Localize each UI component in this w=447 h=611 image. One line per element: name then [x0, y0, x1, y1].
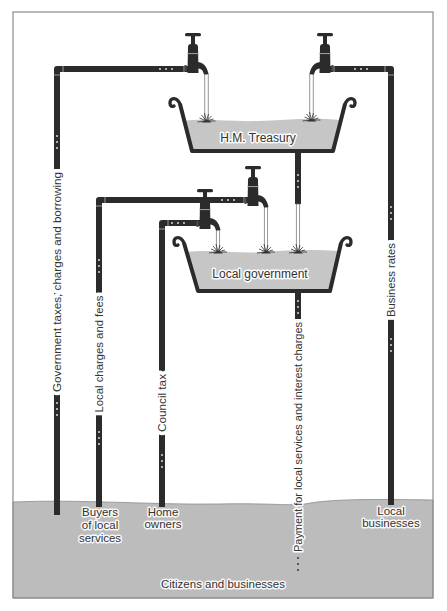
- public-finance-flow-diagram: H.M. Treasury Local government Governmen…: [0, 0, 447, 611]
- flow-marker-dot: [98, 431, 100, 433]
- stream-local-charges: [264, 207, 267, 251]
- ground-label: Citizens and businesses: [161, 578, 285, 590]
- flow-marker-dot: [56, 135, 58, 137]
- flow-label-local-charges: Local charges and fees: [93, 295, 105, 413]
- flow-label-government-taxes: Government taxes, charges and borrowing: [51, 172, 63, 392]
- flow-marker-dot: [297, 300, 299, 302]
- flow-marker-dot: [161, 454, 163, 456]
- pipe-local-charges: [99, 200, 248, 507]
- flow-marker-dot: [165, 68, 167, 70]
- source-home-owners: Home owners: [144, 506, 181, 530]
- treasury-label: H.M. Treasury: [220, 131, 295, 145]
- flow-marker-dot: [297, 569, 299, 571]
- flow-marker-dot: [297, 174, 299, 176]
- stream-treasury-to-local: [296, 204, 299, 251]
- flow-marker-dot: [161, 460, 163, 462]
- flow-label-business-rates: Business rates: [385, 242, 397, 317]
- flow-marker-dot: [159, 68, 161, 70]
- source-label-line: owners: [144, 518, 181, 530]
- flow-marker-dot: [177, 222, 179, 224]
- flow-marker-dot: [390, 344, 392, 346]
- flow-marker-dot: [366, 68, 368, 70]
- flow-marker-dot: [56, 408, 58, 410]
- flow-marker-dot: [297, 186, 299, 188]
- flow-marker-dot: [390, 212, 392, 214]
- flow-marker-dot: [221, 199, 223, 201]
- tap-icon-government-taxes: [185, 33, 209, 75]
- flow-marker-dot: [297, 312, 299, 314]
- flow-marker-dot: [390, 218, 392, 220]
- source-label-line: Buyers: [82, 506, 118, 518]
- stream-government-taxes: [205, 74, 208, 120]
- flow-marker-dot: [360, 68, 362, 70]
- local-government-label: Local government: [212, 267, 308, 281]
- flow-marker-dot: [227, 199, 229, 201]
- flow-marker-dot: [98, 443, 100, 445]
- flow-marker-dot: [297, 306, 299, 308]
- flow-marker-dot: [56, 141, 58, 143]
- flow-marker-dot: [297, 557, 299, 559]
- flow-marker-dot: [98, 437, 100, 439]
- flow-label-council-tax: Council tax: [156, 373, 168, 432]
- flow-label-payments: Payment for local services and interest …: [292, 322, 304, 552]
- flow-marker-dot: [183, 222, 185, 224]
- flow-marker-dot: [354, 68, 356, 70]
- pipe-government-taxes: [57, 69, 188, 515]
- source-label-line: services: [79, 532, 121, 544]
- flow-marker-dot: [297, 563, 299, 565]
- flow-marker-dot: [297, 180, 299, 182]
- flow-marker-dot: [171, 68, 173, 70]
- local-government-bath: Local government: [174, 238, 351, 291]
- flow-marker-dot: [98, 265, 100, 267]
- flow-marker-dot: [390, 206, 392, 208]
- flow-marker-dot: [98, 271, 100, 273]
- treasury-bath: H.M. Treasury: [170, 99, 355, 151]
- flow-marker-dot: [233, 199, 235, 201]
- source-label-line: of local: [82, 519, 118, 531]
- flow-marker-dot: [171, 222, 173, 224]
- tap-icon-council-tax: [197, 189, 221, 231]
- source-label-line: Local: [377, 505, 405, 517]
- flow-marker-dot: [161, 466, 163, 468]
- flow-marker-dot: [390, 350, 392, 352]
- flow-marker-dot: [56, 147, 58, 149]
- flow-marker-dot: [390, 338, 392, 340]
- stream-business-rates: [310, 74, 313, 120]
- flow-marker-dot: [56, 414, 58, 416]
- source-buyers-of-local-services: Buyers of local services: [79, 506, 121, 544]
- tap-icon-business-rates: [310, 33, 334, 75]
- tap-icon-local-charges: [245, 166, 269, 208]
- source-label-line: businesses: [362, 517, 420, 529]
- source-label-line: Home: [148, 506, 179, 518]
- flow-marker-dot: [98, 259, 100, 261]
- flow-marker-dot: [56, 402, 58, 404]
